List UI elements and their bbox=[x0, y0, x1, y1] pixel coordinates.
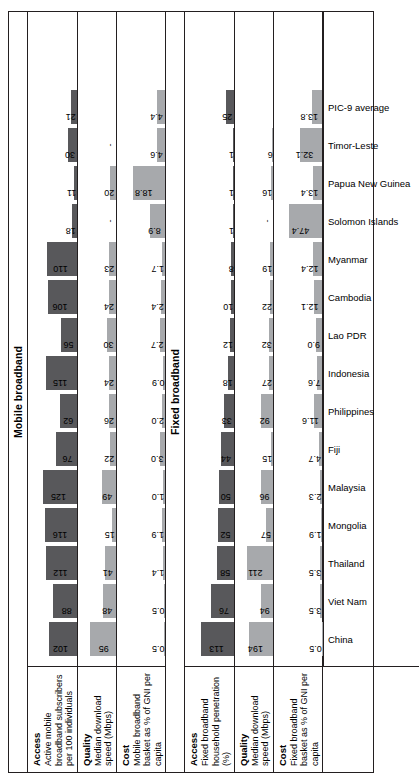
metric-description: Mobile broadband basket as % of GNI per … bbox=[132, 672, 164, 766]
bar-item: 48 bbox=[80, 584, 116, 618]
category-label: Fiji bbox=[328, 444, 340, 455]
bar-value-label: 1.0 bbox=[152, 492, 165, 501]
metric-row-mobile-quality: QualityMedian download speed (Mbps)95484… bbox=[78, 12, 117, 772]
bar-value-label: 15 bbox=[104, 530, 114, 539]
bar-value-label: 58 bbox=[220, 568, 230, 577]
category-label: Myanmar bbox=[328, 254, 368, 265]
category-tick: Cambodia bbox=[324, 280, 419, 314]
metric-name: Access bbox=[31, 672, 42, 766]
metric-row-fixed-quality: QualityMedian download speed (Mbps)19494… bbox=[235, 12, 274, 772]
bar-item: 20 bbox=[80, 166, 116, 200]
bar-value-label: 1 bbox=[228, 150, 233, 159]
bar-value-label: 20 bbox=[104, 188, 114, 197]
bar-item: 26 bbox=[80, 394, 116, 428]
axis-head-spacer bbox=[323, 666, 419, 772]
category-tick: Myanmar bbox=[324, 242, 419, 276]
section-title: Fixed broadband bbox=[166, 12, 185, 772]
category-label: Mongolia bbox=[328, 520, 367, 531]
bar-value-label: 125 bbox=[50, 492, 65, 501]
bar-value-label: 32 bbox=[261, 340, 271, 349]
metric-head: AccessActive mobile broadband subscriber… bbox=[28, 666, 77, 772]
bar-item: 94 bbox=[237, 584, 273, 618]
category-tick: Mongolia bbox=[324, 508, 419, 542]
bar-item: 8 bbox=[187, 242, 234, 276]
bar-item: 113 bbox=[187, 622, 234, 656]
bar-item: 4.4 bbox=[119, 90, 166, 124]
bar-item: 30 bbox=[80, 318, 116, 352]
bar-item bbox=[237, 90, 273, 124]
bar-value-label: 22 bbox=[262, 302, 272, 311]
bar-item: 57 bbox=[237, 508, 273, 542]
bar-value-label: 8.9 bbox=[148, 226, 161, 235]
category-tick: PIC-9 average bbox=[324, 90, 419, 124]
bar-item: 1.7 bbox=[119, 242, 166, 276]
metric-head: QualityMedian download speed (Mbps) bbox=[235, 666, 273, 772]
bar-item: 2.7 bbox=[119, 318, 166, 352]
metric-name: Quality bbox=[238, 672, 249, 766]
bar-item: 25 bbox=[187, 90, 234, 124]
bar-value-label: 11 bbox=[66, 188, 75, 197]
bar-series: 0.53.53.51.92.34.711.67.69.012.112.447.4… bbox=[276, 22, 323, 656]
bar-item: 92 bbox=[237, 394, 273, 428]
bar-value-label: 49 bbox=[102, 492, 112, 501]
category-label: Cambodia bbox=[328, 292, 371, 303]
bar-item: 12.4 bbox=[276, 242, 323, 276]
bar-value-label: 33 bbox=[221, 416, 231, 425]
broadband-indicator-figure: Mobile broadbandAccessActive mobile broa… bbox=[8, 11, 374, 773]
bar-item: 11 bbox=[30, 166, 77, 200]
bar-value-label: 76 bbox=[219, 606, 229, 615]
bar-value-label: 7.6 bbox=[308, 378, 321, 387]
bar-item: 9.0 bbox=[276, 318, 323, 352]
bar-item: 3.0 bbox=[119, 432, 166, 466]
category-label: PIC-9 average bbox=[328, 102, 389, 113]
bar-value-label: 115 bbox=[52, 378, 66, 387]
bar-item: 22 bbox=[237, 280, 273, 314]
bar-value-label: 41 bbox=[102, 568, 112, 577]
bar-item: 1.9 bbox=[119, 508, 166, 542]
bar-value-label: 18 bbox=[65, 226, 75, 235]
category-tick: Fiji bbox=[324, 432, 419, 466]
bar-value-label: 96 bbox=[259, 492, 269, 501]
bar-item: 102 bbox=[30, 622, 77, 656]
bar-item: 4.6 bbox=[119, 128, 166, 162]
bar-value-label: 13.4 bbox=[301, 188, 319, 197]
metric-name: Cost bbox=[120, 672, 131, 766]
bar-value-label: 18 bbox=[222, 378, 232, 387]
bar-series: 0.50.51.41.91.03.02.00.92.72.41.78.918.8… bbox=[119, 22, 166, 656]
plot-area-mobile-cost: 0.50.51.41.91.03.02.00.92.72.41.78.918.8… bbox=[117, 12, 166, 666]
metric-head: AccessFixed broadband household penetrat… bbox=[185, 666, 234, 772]
metric-name: Quality bbox=[81, 672, 92, 766]
bar-value-label: 88 bbox=[61, 606, 71, 615]
bar-item: 0.9 bbox=[119, 356, 166, 390]
bar-item: 2.4 bbox=[119, 280, 166, 314]
bar-item: 16 bbox=[237, 166, 273, 200]
bar-value-label: 3.5 bbox=[309, 568, 322, 577]
bar-value-label: 24 bbox=[104, 302, 114, 311]
metric-description: Median download speed (Mbps) bbox=[93, 672, 114, 766]
bar-item: 76 bbox=[30, 432, 77, 466]
bar-value-label: 4.6 bbox=[150, 150, 163, 159]
section-mobile-broadband: Mobile broadbandAccessActive mobile broa… bbox=[9, 12, 166, 772]
plot-area-fixed-quality: 194942115796159227322219-166 bbox=[235, 12, 273, 666]
bar-item: 15 bbox=[237, 432, 273, 466]
bar-item: 41 bbox=[80, 546, 116, 580]
category-tick: Philippines bbox=[324, 394, 419, 428]
bar-value-label: 22 bbox=[104, 454, 114, 463]
bar-series: 1028811211612576621155610611018113021 bbox=[30, 22, 77, 656]
bar-item: 1 bbox=[187, 166, 234, 200]
bar-item: 7.6 bbox=[276, 356, 323, 390]
no-data-dash: - bbox=[262, 220, 272, 223]
bar-item: 24 bbox=[80, 356, 116, 390]
bar-value-label: 4.7 bbox=[308, 454, 321, 463]
plot-area-fixed-cost: 0.53.53.51.92.34.711.67.69.012.112.447.4… bbox=[274, 12, 323, 666]
metric-row-mobile-cost: CostMobile broadband basket as % of GNI … bbox=[117, 12, 166, 772]
bar-value-label: 62 bbox=[63, 416, 73, 425]
bar-value-label: 11.6 bbox=[302, 416, 319, 425]
bar-item: 110 bbox=[30, 242, 77, 276]
bar-item: 13.8 bbox=[276, 90, 323, 124]
bar-item: 1.9 bbox=[276, 508, 323, 542]
no-data-dash: - bbox=[105, 144, 115, 147]
metric-row-fixed-access: AccessFixed broadband household penetrat… bbox=[185, 12, 235, 772]
bar-value-label: 2.0 bbox=[151, 416, 164, 425]
